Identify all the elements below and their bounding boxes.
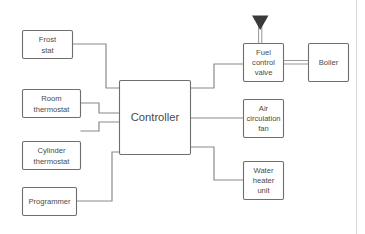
water-heater-unit-label-line-3: unit — [257, 186, 270, 195]
room-thermostat-label-line-2: thermostat — [34, 105, 71, 114]
connector-programmer-to-controller — [77, 152, 120, 201]
connector-controller-to-water-heater-unit — [191, 147, 243, 180]
controller-label: Controller — [131, 111, 180, 123]
cylinder-thermostat-label-line-2: thermostat — [34, 157, 71, 166]
block-water-heater-unit[interactable]: Water heater unit — [244, 162, 284, 200]
fuel-control-valve-label-line-3: valve — [255, 68, 273, 77]
air-circulation-fan-label-line-2: circulation — [246, 114, 280, 123]
connector-room-thermostat-to-controller — [81, 103, 120, 113]
programmer-label: Programmer — [28, 197, 71, 206]
frost-stat-label-line-2: stat — [41, 46, 54, 55]
block-diagram: Frost stat Room thermostat Cylinder ther… — [0, 0, 365, 234]
boiler-label: Boiler — [319, 58, 339, 67]
block-cylinder-thermostat[interactable]: Cylinder thermostat — [23, 142, 81, 170]
air-circulation-fan-label-line-3: fan — [258, 124, 269, 133]
connector-frost-stat-to-controller — [73, 44, 120, 88]
room-thermostat-label-line-1: Room — [41, 94, 61, 103]
connector-controller-to-fuel-control-valve — [191, 64, 243, 88]
block-fuel-control-valve[interactable]: Fuel control valve — [244, 44, 284, 82]
frost-stat-label-line-1: Frost — [39, 35, 57, 44]
fuel-control-valve-label-line-1: Fuel — [256, 48, 271, 57]
air-circulation-fan-label-line-1: Air — [259, 104, 269, 113]
block-air-circulation-fan[interactable]: Air circulation fan — [244, 100, 284, 138]
water-heater-unit-label-line-2: heater — [253, 176, 275, 185]
block-programmer[interactable]: Programmer — [23, 188, 77, 216]
block-controller[interactable]: Controller — [120, 81, 191, 155]
water-heater-unit-label-line-1: Water — [254, 166, 274, 175]
block-room-thermostat[interactable]: Room thermostat — [23, 90, 81, 118]
cylinder-thermostat-label-line-1: Cylinder — [38, 146, 66, 155]
connector-cylinder-thermostat-to-controller — [81, 122, 120, 131]
fuel-control-valve-label-line-2: control — [252, 58, 275, 67]
diagram-canvas: Frost stat Room thermostat Cylinder ther… — [0, 0, 365, 234]
block-boiler[interactable]: Boiler — [309, 44, 349, 82]
gas-supply-marker-icon — [252, 16, 269, 31]
block-frost-stat[interactable]: Frost stat — [23, 31, 73, 59]
